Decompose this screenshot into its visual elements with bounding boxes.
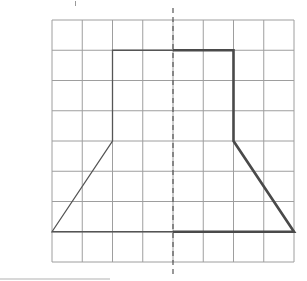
bottom-divider bbox=[0, 278, 110, 280]
symmetry-diagram bbox=[0, 0, 307, 281]
